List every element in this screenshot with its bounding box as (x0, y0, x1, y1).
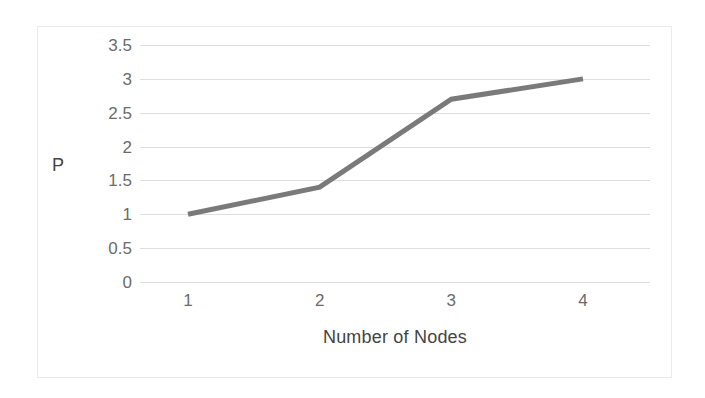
x-axis-title: Number of Nodes (140, 327, 650, 348)
x-tick-label: 4 (578, 292, 587, 309)
y-axis-tick-labels: 3.532.521.510.50 (60, 45, 132, 282)
line-chart-figure: 3.532.521.510.50 P 1234 Number of Nodes (0, 0, 705, 398)
x-tick-label: 1 (183, 292, 192, 309)
y-tick-label: 3.5 (68, 37, 132, 54)
y-tick-label: 3 (68, 71, 132, 88)
y-tick-label: 1.5 (68, 172, 132, 189)
y-tick-label: 0 (68, 274, 132, 291)
y-tick-label: 1 (68, 206, 132, 223)
x-tick-label: 2 (315, 292, 324, 309)
y-axis-title: P (52, 156, 64, 174)
x-tick-label: 3 (447, 292, 456, 309)
y-tick-label: 2.5 (68, 105, 132, 122)
y-tick-label: 2 (68, 139, 132, 156)
y-tick-label: 0.5 (68, 240, 132, 257)
plot-area (140, 45, 650, 282)
x-axis-tick-labels: 1234 (140, 292, 650, 316)
gridline-y-0 (140, 282, 650, 283)
series-line-p (188, 79, 583, 214)
series-layer (140, 45, 650, 282)
